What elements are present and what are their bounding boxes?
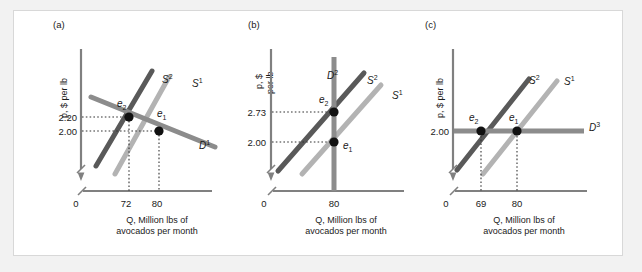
panel-c-curve-label-s2: S2 (529, 74, 540, 86)
panel-c: (c) p, $ per lb 2.00 0 69 80 (409, 11, 614, 257)
panel-b-point-label-e2: e2 (319, 94, 328, 107)
panel-b-curve-label-s1-sup: 1 (399, 89, 403, 96)
panel-b-point-label-e1-sub: 1 (349, 146, 353, 153)
panel-a-curve-label-s1-sup: 1 (199, 77, 203, 84)
figure-canvas: (a) p, $ per lb 2.20 2.00 0 72 80 (0, 0, 642, 272)
panel-b-point-e2 (329, 107, 338, 116)
panel-a-point-label-e2-sub: 2 (123, 104, 127, 111)
panel-b-curve-label-s2: S2 (367, 74, 378, 86)
panel-b-point-label-e1: e1 (343, 140, 352, 153)
panel-c-point-e1 (512, 126, 521, 135)
panel-b-curve-label-s2-sup: 2 (374, 74, 378, 81)
panel-c-curve-label-s1-base: S (564, 76, 571, 87)
panel-a-curve-label-s2-base: S (162, 74, 169, 85)
panel-c-point-label-e2-sub: 2 (475, 118, 479, 125)
panel-b-y-axis-arrow (268, 173, 275, 182)
panel-b-curve-label-s2-base: S (367, 75, 374, 86)
panel-c-curve-label-d3: D3 (589, 121, 600, 133)
panel-a-y-axis-arrow (78, 173, 85, 182)
panel-c-curve-s1 (483, 81, 557, 174)
panel-c-curve-label-s1: S1 (564, 75, 575, 87)
panel-b-point-e1 (329, 137, 338, 146)
panel-a-curve-label-d1: D1 (199, 139, 210, 151)
panel-c-x-axis-label: Q, Million lbs of avocados per month (464, 215, 584, 237)
panel-a-point-label-e1: e1 (157, 108, 166, 121)
panel-c-point-label-e2: e2 (469, 112, 478, 125)
panel-c-point-label-e1-sub: 1 (515, 118, 519, 125)
panel-a-x-axis-label-line2: avocados per month (116, 226, 198, 236)
figure-frame: (a) p, $ per lb 2.20 2.00 0 72 80 (13, 10, 623, 256)
panel-a-curve-label-s2-sup: 2 (169, 73, 173, 80)
panel-b-x-axis-label: Q, Million lbs of avocados per month (286, 215, 406, 237)
panel-a-point-e1 (154, 126, 163, 135)
panel-a: (a) p, $ per lb 2.20 2.00 0 72 80 (19, 11, 224, 257)
panel-c-curve-label-d3-sup: 3 (596, 121, 600, 128)
panel-c-point-label-e1: e1 (509, 112, 518, 125)
panel-b-point-label-e2-sub: 2 (325, 100, 329, 107)
panel-c-x-axis-label-line2: avocados per month (483, 226, 565, 236)
panel-b: (b) p, $ per lb 2.73 2.00 0 80 (214, 11, 419, 257)
panel-a-x-axis-label-line1: Q, Million lbs of (126, 215, 188, 225)
panel-a-curve-label-d1-sup: 1 (206, 139, 210, 146)
panel-c-x-axis-label-line1: Q, Million lbs of (493, 215, 555, 225)
panel-a-point-label-e1-sub: 1 (163, 114, 167, 121)
panel-a-curve-label-s1: S1 (192, 77, 203, 89)
panel-b-curve-label-s1: S1 (392, 89, 403, 101)
panel-b-x-axis-label-line2: avocados per month (305, 226, 387, 236)
panel-b-curve-label-s1-base: S (392, 90, 399, 101)
panel-b-curve-label-d2: D2 (327, 69, 338, 81)
panel-c-point-e2 (476, 126, 485, 135)
panel-a-point-e2 (124, 112, 133, 121)
panel-c-curve-label-s1-sup: 1 (571, 75, 575, 82)
panel-b-curve-label-d2-sup: 2 (334, 69, 338, 76)
panel-c-curve-label-s2-sup: 2 (536, 74, 540, 81)
panel-c-y-axis-arrow (450, 173, 457, 182)
panel-a-point-label-e2: e2 (117, 98, 126, 111)
panel-a-curve-label-s1-base: S (192, 78, 199, 89)
panel-c-curve-label-s2-base: S (529, 75, 536, 86)
panel-b-x-axis-label-line1: Q, Million lbs of (315, 215, 377, 225)
panel-a-curve-label-s2: S2 (162, 73, 173, 85)
panel-a-x-axis-label: Q, Million lbs of avocados per month (97, 215, 217, 237)
